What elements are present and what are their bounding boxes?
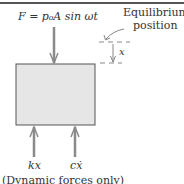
damper-force-label: cẋ — [70, 160, 82, 172]
free-body-diagram: F = p₀A sin ωt Equilibrium position x kx… — [0, 0, 184, 184]
equilibrium-label-line2: position — [133, 20, 177, 32]
spring-force-label: kx — [28, 160, 41, 172]
equilibrium-label-line1: Equilibrium — [123, 7, 184, 19]
displacement-label: x — [119, 46, 125, 58]
leader-curve — [106, 29, 124, 39]
applied-force-label: F = p₀A sin ωt — [18, 11, 98, 23]
caption: (Dynamic forces only) — [2, 175, 124, 184]
mass-block — [16, 64, 95, 125]
